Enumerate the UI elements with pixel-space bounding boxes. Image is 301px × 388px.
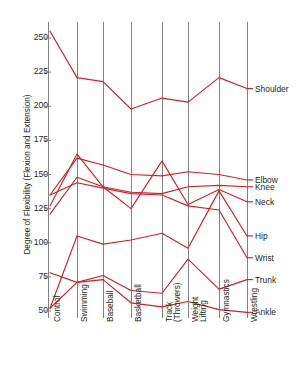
plot-area xyxy=(0,0,301,388)
series-label-knee: Knee xyxy=(255,182,275,192)
x-category-label-track-throwers: Track(Throwers) xyxy=(166,282,183,322)
parallel-coordinates-chart: Degree of Flexibility (Flexion and Exten… xyxy=(0,0,301,388)
x-category-label-baseball: Baseball xyxy=(107,291,115,322)
series-label-wrist: Wrist xyxy=(255,253,274,263)
series-line-neck xyxy=(50,154,247,209)
series-label-ankle: Ankle xyxy=(255,307,276,317)
series-label-shoulder: Shoulder xyxy=(255,84,289,94)
x-category-label-weight-lifting: WeightLifting xyxy=(192,297,209,322)
series-label-trunk: Trunk xyxy=(255,275,276,285)
series-label-neck: Neck xyxy=(255,197,274,207)
x-category-label-gymnastics: Gymnastics xyxy=(223,279,231,322)
series-line-elbow xyxy=(50,158,247,195)
x-category-label-basketball: Basketball xyxy=(135,284,143,322)
x-category-label-swimming: Swimming xyxy=(81,284,89,322)
x-category-label-control: Control xyxy=(54,296,62,322)
series-label-hip: Hip xyxy=(255,231,268,241)
series-line-shoulder xyxy=(50,31,247,109)
